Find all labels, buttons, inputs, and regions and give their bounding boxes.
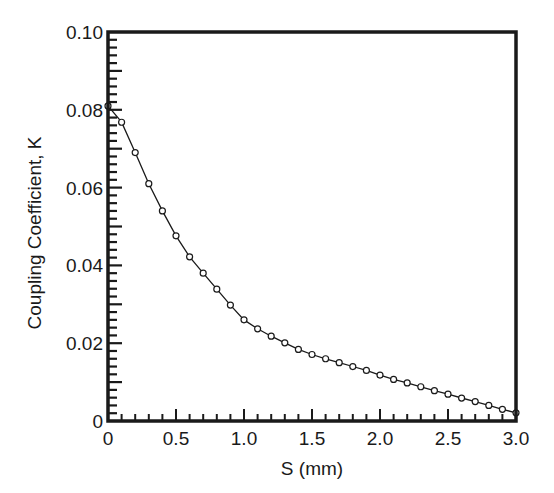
data-point-marker [309, 351, 315, 357]
x-tick-label: 2.5 [435, 428, 461, 449]
data-point-marker [255, 326, 261, 332]
data-point-marker [146, 181, 152, 187]
tick-labels: 00.51.01.52.02.53.000.020.040.060.080.10 [66, 22, 529, 449]
data-point-marker [459, 395, 465, 401]
data-point-marker [472, 399, 478, 405]
data-point-marker [336, 360, 342, 366]
y-tick-label: 0.02 [66, 333, 103, 354]
data-point-marker [200, 270, 206, 276]
y-axis-title: Coupling Coefficient, K [24, 136, 45, 329]
data-point-marker [187, 254, 193, 260]
axis-ticks [108, 40, 502, 421]
data-point-marker [282, 340, 288, 346]
y-tick-label: 0.04 [66, 255, 103, 276]
x-axis-title: S (mm) [281, 458, 343, 479]
data-series [105, 103, 519, 416]
series-line [108, 106, 516, 413]
data-point-marker [159, 208, 165, 214]
data-point-marker [363, 367, 369, 373]
data-point-marker [486, 402, 492, 408]
data-point-marker [350, 364, 356, 370]
data-point-marker [268, 333, 274, 339]
x-tick-label: 1.5 [299, 428, 325, 449]
data-point-marker [173, 233, 179, 239]
data-point-marker [391, 376, 397, 382]
y-tick-label: 0.06 [66, 178, 103, 199]
data-point-marker [445, 391, 451, 397]
x-tick-label: 1.0 [231, 428, 257, 449]
data-point-marker [323, 356, 329, 362]
data-point-marker [241, 317, 247, 323]
data-point-marker [295, 346, 301, 352]
data-point-marker [404, 380, 410, 386]
data-point-marker [431, 388, 437, 394]
y-tick-label: 0.08 [66, 100, 103, 121]
y-tick-label: 0.10 [66, 22, 103, 43]
plot-frame [108, 32, 516, 421]
data-point-marker [119, 119, 125, 125]
x-tick-label: 2.0 [367, 428, 393, 449]
data-point-marker [132, 150, 138, 156]
data-point-marker [499, 406, 505, 412]
data-point-marker [214, 286, 220, 292]
x-tick-label: 0.5 [163, 428, 189, 449]
y-tick-label: 0 [92, 411, 103, 432]
chart: 00.51.01.52.02.53.000.020.040.060.080.10… [0, 0, 554, 493]
data-point-marker [418, 384, 424, 390]
data-point-marker [377, 372, 383, 378]
data-point-marker [227, 302, 233, 308]
x-tick-label: 3.0 [503, 428, 529, 449]
x-tick-label: 0 [103, 428, 114, 449]
